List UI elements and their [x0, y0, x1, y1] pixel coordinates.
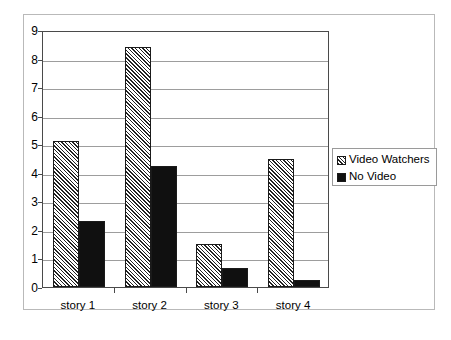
y-axis-tick-label: 5 — [22, 139, 38, 151]
x-axis-tick-label: story 3 — [204, 299, 239, 311]
y-axis: 0123456789 — [20, 31, 38, 288]
gridline — [43, 89, 328, 90]
x-axis-tick-label: story 4 — [276, 299, 311, 311]
y-axis-tick-label: 2 — [22, 225, 38, 237]
y-axis-tick-mark — [38, 259, 42, 260]
bar-no-video-story-4 — [294, 280, 320, 287]
bar-no-video-story-2 — [151, 166, 177, 287]
y-axis-tick-mark — [38, 288, 42, 289]
plot-area — [42, 31, 329, 288]
bar-video-watchers-story-3 — [196, 244, 222, 287]
y-axis-tick-mark — [38, 31, 42, 32]
y-axis-tick-label: 8 — [22, 54, 38, 66]
legend-label-no-video: No Video — [349, 171, 396, 183]
x-axis-tick-mark — [257, 288, 258, 293]
legend-item-video-watchers: Video Watchers — [337, 152, 432, 168]
gridline — [43, 146, 328, 147]
y-axis-tick-mark — [38, 174, 42, 175]
y-axis-tick-label: 4 — [22, 168, 38, 180]
gridline — [43, 61, 328, 62]
gridline — [43, 118, 328, 119]
legend-swatch-hatched-icon — [337, 156, 346, 165]
legend-label-video-watchers: Video Watchers — [349, 154, 430, 166]
bar-no-video-story-1 — [79, 221, 105, 287]
y-axis-tick-mark — [38, 231, 42, 232]
chart-canvas: 0123456789 story 1story 2story 3story 4 … — [0, 0, 451, 340]
x-axis-tick-label: story 2 — [132, 299, 167, 311]
y-axis-tick-label: 9 — [22, 25, 38, 37]
y-axis-tick-label: 0 — [22, 282, 38, 294]
bar-no-video-story-3 — [222, 268, 248, 287]
y-axis-tick-mark — [38, 117, 42, 118]
y-axis-tick-mark — [38, 60, 42, 61]
bar-video-watchers-story-4 — [268, 159, 294, 288]
legend-item-no-video: No Video — [337, 169, 432, 185]
legend-swatch-solid-icon — [337, 173, 346, 182]
chart-legend: Video Watchers No Video — [332, 148, 437, 186]
y-axis-tick-label: 3 — [22, 196, 38, 208]
y-axis-tick-label: 1 — [22, 253, 38, 265]
y-axis-tick-mark — [38, 88, 42, 89]
x-axis-tick-mark — [186, 288, 187, 293]
y-axis-tick-mark — [38, 145, 42, 146]
x-axis-tick-mark — [114, 288, 115, 293]
bar-video-watchers-story-1 — [53, 141, 79, 287]
y-axis-tick-mark — [38, 202, 42, 203]
x-axis-tick-label: story 1 — [61, 299, 96, 311]
y-axis-tick-label: 7 — [22, 82, 38, 94]
bar-video-watchers-story-2 — [125, 47, 151, 287]
y-axis-tick-label: 6 — [22, 111, 38, 123]
